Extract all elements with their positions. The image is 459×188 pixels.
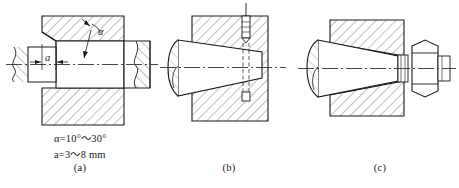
note-dimension-range: a=3～8 mm [54,146,106,161]
label-alpha-symbol: α [98,26,104,37]
panel-c-drawing [298,20,456,116]
note-angle-range: α=10°～30° [54,130,107,145]
housing-lower-section [42,88,124,125]
panel-a-drawing [6,16,158,125]
technical-drawing-sheet: α=10°～30° a=3～8 mm α a (a) (b) (c) [0,0,459,188]
caption-panel-c: (c) [358,162,402,173]
label-a-dimension-symbol: a [45,52,50,63]
panel-b-pin-foot [242,92,250,101]
caption-panel-a: (a) [58,162,102,173]
panel-b-drawing [160,3,286,121]
panel-a-housing-lower [42,88,124,125]
caption-panel-b: (b) [207,162,251,173]
